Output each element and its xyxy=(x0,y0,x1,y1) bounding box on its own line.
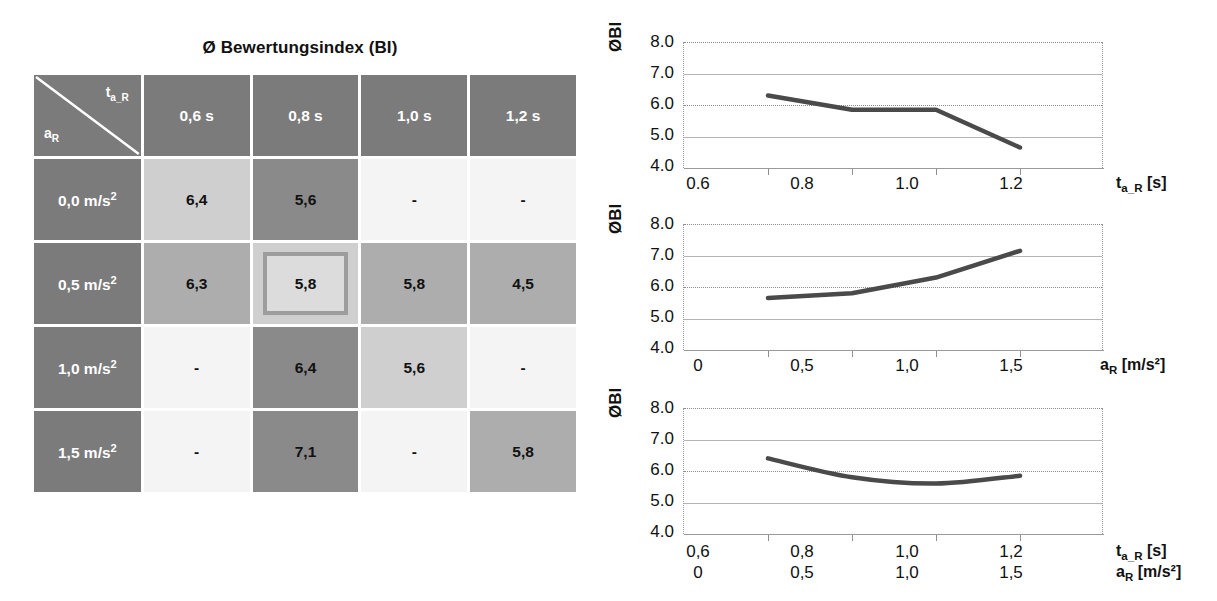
matrix-cell-value: - xyxy=(521,359,526,377)
chart-bi-vs-ta: ØBI 8.0 7.0 6.0 5.0 4.0 0.6 0.8 1.0 1.2 … xyxy=(600,0,1217,195)
matrix-cell-value: 5,6 xyxy=(404,359,426,377)
table-row: 1,5 m/s2-7,1-5,8 xyxy=(34,411,576,492)
x-axis-line xyxy=(684,168,1104,169)
x-tickmark-2 xyxy=(852,350,853,357)
chart3-x-axis-label-row2-main: a xyxy=(1116,563,1125,580)
matrix-row-header-1: 0,5 m/s2 xyxy=(34,243,141,324)
page-title: Ø Bewertungsindex (BI) xyxy=(0,38,600,58)
chart3-ytick-8: 8.0 xyxy=(622,399,674,416)
matrix-column-header-label: 1,0 s xyxy=(397,107,431,124)
chart-bi-vs-ar: ØBI 8.0 7.0 6.0 5.0 4.0 0 0,5 1,0 1,5 aR… xyxy=(600,182,1217,377)
matrix-cell-content: - xyxy=(361,411,467,492)
matrix-cell-content: 6,3 xyxy=(144,243,250,324)
matrix-cell-value: 5,6 xyxy=(295,191,317,209)
chart3-xtick-row1-3: 1,2 xyxy=(981,542,1041,562)
chart3-x-axis-label-row1-sub: a_R xyxy=(1121,550,1142,562)
matrix-cell-r0-c0[interactable]: 6,4 xyxy=(144,159,250,240)
matrix-column-header-label: 0,8 s xyxy=(288,107,322,124)
chart3-xtick-row1-1: 0,8 xyxy=(772,542,832,562)
matrix-cell-r3-c2[interactable]: - xyxy=(361,411,467,492)
matrix-cell-value: 6,3 xyxy=(186,275,208,293)
matrix-cell-content: - xyxy=(470,159,576,240)
matrix-cell-content: 5,6 xyxy=(253,159,359,240)
x-tickmark-3 xyxy=(936,534,937,541)
matrix-cell-content: 5,8 xyxy=(361,243,467,324)
matrix-column-header-0: 0,6 s xyxy=(144,75,250,156)
chart2-ytick-6: 6.0 xyxy=(622,277,674,294)
chart3-x-axis-label-row2-unit: [m/s²] xyxy=(1138,563,1182,580)
matrix-cell-value: 5,8 xyxy=(512,443,534,461)
matrix-cell-content: 5,8 xyxy=(253,243,359,324)
chart1-ytick-5: 5.0 xyxy=(622,126,674,143)
matrix-cell-value: - xyxy=(412,443,417,461)
series-line xyxy=(684,224,1104,350)
matrix-column-header-3: 1,2 s xyxy=(470,75,576,156)
matrix-cell-value: - xyxy=(194,359,199,377)
chart2-ytick-4: 4.0 xyxy=(622,339,674,356)
matrix-row-header-label: 1,0 m/s2 xyxy=(58,360,117,377)
matrix-cell-r2-c2[interactable]: 5,6 xyxy=(361,327,467,408)
chart1-ytick-4: 4.0 xyxy=(622,157,674,174)
chart3-xtick-row2-3: 1,5 xyxy=(981,563,1041,583)
x-tickmark-1 xyxy=(768,534,769,541)
x-tickmark-2 xyxy=(852,534,853,541)
series-line xyxy=(684,408,1104,534)
table-row: 1,0 m/s2-6,45,6- xyxy=(34,327,576,408)
table-row: 0,5 m/s26,35,85,84,5 xyxy=(34,243,576,324)
matrix-cell-value: - xyxy=(412,191,417,209)
matrix-row-header-label: 0,0 m/s2 xyxy=(58,192,117,209)
matrix-cell-r0-c3[interactable]: - xyxy=(470,159,576,240)
matrix-row-header-label: 1,5 m/s2 xyxy=(58,444,117,461)
chart2-plot-area xyxy=(683,224,1103,350)
matrix-cell-content: 4,5 xyxy=(470,243,576,324)
series-line xyxy=(684,42,1104,168)
matrix-cell-r0-c1[interactable]: 5,6 xyxy=(253,159,359,240)
matrix-header-row: ta_RaR0,6 s0,8 s1,0 s1,2 s xyxy=(34,75,576,156)
matrix-column-header-label: 0,6 s xyxy=(179,107,213,124)
chart3-xtick-row2-0: 0 xyxy=(668,563,728,583)
matrix-cell-r1-c2[interactable]: 5,8 xyxy=(361,243,467,324)
charts-panel: ØBI 8.0 7.0 6.0 5.0 4.0 0.6 0.8 1.0 1.2 … xyxy=(600,0,1217,601)
matrix-cell-r1-c3[interactable]: 4,5 xyxy=(470,243,576,324)
chart1-ytick-6: 6.0 xyxy=(622,95,674,112)
matrix-cell-content: - xyxy=(144,411,250,492)
matrix-column-header-2: 1,0 s xyxy=(361,75,467,156)
matrix-cell-r3-c0[interactable]: - xyxy=(144,411,250,492)
matrix-cell-r2-c3[interactable]: - xyxy=(470,327,576,408)
matrix-cell-content: 5,6 xyxy=(361,327,467,408)
matrix-column-header-label: 1,2 s xyxy=(506,107,540,124)
matrix-cell-r3-c3[interactable]: 5,8 xyxy=(470,411,576,492)
matrix-cell-content: - xyxy=(470,327,576,408)
chart3-x-axis-label-row2: aR [m/s²] xyxy=(1116,563,1181,583)
matrix-cell-r0-c2[interactable]: - xyxy=(361,159,467,240)
matrix-cell-value: 6,4 xyxy=(186,191,208,209)
chart3-ytick-4: 4.0 xyxy=(622,523,674,540)
matrix-cell-r2-c0[interactable]: - xyxy=(144,327,250,408)
chart1-ytick-7: 7.0 xyxy=(622,64,674,81)
chart2-ytick-8: 8.0 xyxy=(622,215,674,232)
matrix-cell-r1-c1[interactable]: 5,8 xyxy=(253,243,359,324)
matrix-cell-r1-c0[interactable]: 6,3 xyxy=(144,243,250,324)
matrix-row-header-3: 1,5 m/s2 xyxy=(34,411,141,492)
bewertungsindex-matrix: ta_RaR0,6 s0,8 s1,0 s1,2 s0,0 m/s26,45,6… xyxy=(31,72,579,495)
x-axis-line xyxy=(684,534,1104,535)
x-tickmark-4 xyxy=(1020,534,1021,541)
scan-artifact-text xyxy=(22,583,582,597)
chart1-plot-area xyxy=(683,42,1103,168)
chart3-x-axis-label-row1: ta_R [s] xyxy=(1116,542,1166,562)
chart3-xtick-row2-1: 0,5 xyxy=(772,563,832,583)
matrix-corner-row-label: aR xyxy=(44,125,59,144)
chart3-xtick-row1-0: 0,6 xyxy=(668,542,728,562)
matrix-row-header-label: 0,5 m/s2 xyxy=(58,276,117,293)
matrix-cell-value: 6,4 xyxy=(295,359,317,377)
matrix-cell-r2-c1[interactable]: 6,4 xyxy=(253,327,359,408)
matrix-cell-r3-c1[interactable]: 7,1 xyxy=(253,411,359,492)
chart3-xtick-row2-2: 1,0 xyxy=(877,563,937,583)
x-tickmark-1 xyxy=(768,168,769,175)
chart3-plot-area xyxy=(683,408,1103,534)
chart-bi-combined: ØBI 8.0 7.0 6.0 5.0 4.0 0,6 0,8 1,0 1,2 … xyxy=(600,366,1217,581)
matrix-column-header-1: 0,8 s xyxy=(253,75,359,156)
table-row: 0,0 m/s26,45,6-- xyxy=(34,159,576,240)
matrix-cell-content: 6,4 xyxy=(253,327,359,408)
chart3-ytick-5: 5.0 xyxy=(622,492,674,509)
